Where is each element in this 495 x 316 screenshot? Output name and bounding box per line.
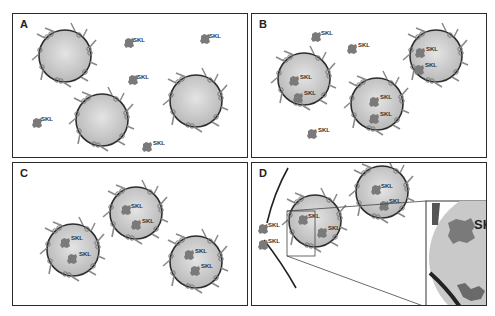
peroxisome (349, 163, 414, 223)
peroxisome (282, 188, 347, 252)
svg-text:SKL: SKL (268, 222, 280, 228)
peroxisome (103, 180, 168, 244)
svg-text:SKL: SKL (321, 30, 333, 36)
svg-text:SKL: SKL (300, 74, 312, 80)
panel-d: D SKL SKL SKL SKL SKL SKL SK (251, 162, 487, 306)
panel-b-diagram: SKL SKL SKL SKL SKL SKL SKL SKL SKL (252, 14, 487, 158)
peroxisome (163, 229, 228, 293)
panel-c-diagram: SKL SKL SKL SKL SKL SKL (13, 163, 248, 306)
svg-text:SKL: SKL (318, 127, 330, 133)
phagophore-membrane (267, 168, 288, 223)
svg-text:SKL: SKL (209, 33, 221, 39)
phagophore-membrane (264, 240, 296, 288)
zoom-connector-line (287, 256, 426, 306)
panel-a: A (12, 13, 248, 158)
inset-skl-cargo (448, 218, 475, 244)
peroxisome (403, 23, 468, 87)
peroxisome (69, 87, 134, 151)
svg-text:SKL: SKL (131, 203, 143, 209)
svg-text:SKL: SKL (328, 225, 340, 231)
svg-text:SKL: SKL (268, 238, 280, 244)
peroxisome (32, 23, 97, 87)
peroxisome (163, 68, 228, 132)
svg-text:SKL: SKL (380, 94, 392, 100)
svg-text:SKL: SKL (201, 263, 213, 269)
svg-text:SKL: SKL (153, 140, 165, 146)
svg-text:SKL: SKL (133, 37, 145, 43)
svg-text:SKL: SKL (137, 74, 149, 80)
panel-d-diagram: SKL SKL SKL SKL SKL SKL SK (252, 163, 487, 306)
svg-text:SKL: SKL (41, 116, 53, 122)
svg-text:SKL: SKL (425, 62, 437, 68)
svg-text:SKL: SKL (142, 218, 154, 224)
svg-text:SKL: SKL (381, 183, 393, 189)
svg-text:SKL: SKL (380, 111, 392, 117)
svg-text:SKL: SKL (195, 248, 207, 254)
panel-b: B SKL SKL SKL SKL SKL SKL SKL SKL SKL (251, 13, 487, 158)
zoom-inset: SK (426, 190, 487, 306)
svg-text:SKL: SKL (71, 235, 83, 241)
panel-a-diagram: SKL SKL SKL SKL SKL (13, 14, 248, 158)
peroxisome (40, 217, 105, 281)
svg-text:SK: SK (474, 217, 487, 232)
panel-c: C SKL SKL SKL SKL SKL SKL (12, 162, 248, 306)
svg-text:SKL: SKL (426, 46, 438, 52)
svg-text:SKL: SKL (304, 90, 316, 96)
svg-text:SKL: SKL (79, 251, 91, 257)
svg-text:SKL: SKL (308, 213, 320, 219)
svg-text:SKL: SKL (358, 42, 370, 48)
